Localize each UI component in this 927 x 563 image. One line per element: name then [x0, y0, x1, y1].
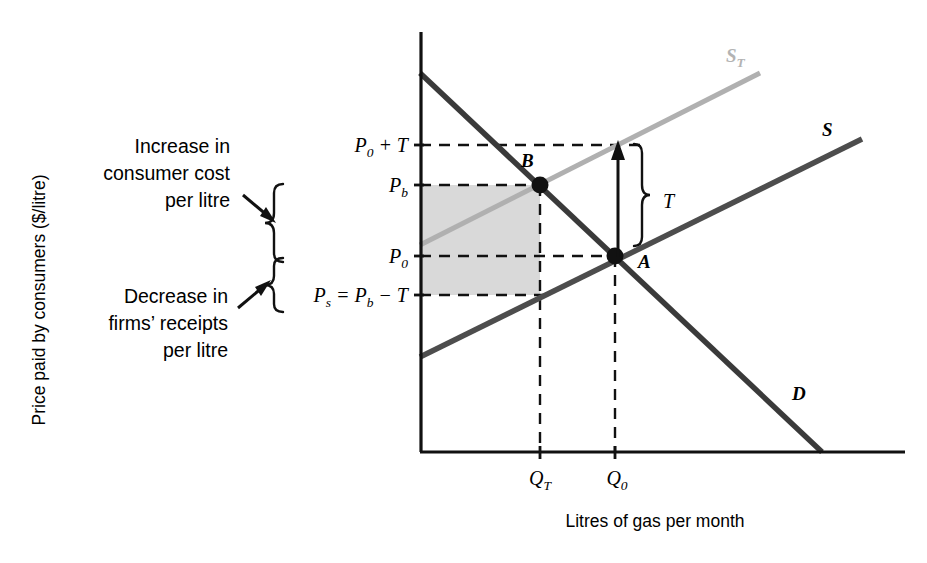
upper-annotation-text: Increase in consumer cost per litre — [103, 135, 230, 211]
p0-plus-t-base: P — [353, 134, 366, 156]
lower-annotation-arrow — [238, 280, 271, 308]
qt-base: Q — [529, 467, 544, 489]
st-base: S — [726, 45, 737, 66]
tax-gap-brace — [634, 144, 650, 246]
point-a-marker — [607, 248, 624, 265]
p0-sub: 0 — [401, 256, 408, 271]
upper-annotation-line-2: consumer cost — [103, 162, 230, 184]
svg-text:P0: P0 — [388, 245, 408, 271]
qt-sub: T — [543, 478, 552, 493]
ps-eq: = — [331, 284, 355, 306]
svg-text:Ps = Pb − T: Ps = Pb − T — [312, 284, 409, 310]
q0-base: Q — [606, 467, 621, 489]
upper-annotation-line-1: Increase in — [135, 135, 230, 157]
economics-supply-demand-figure: Price paid by consumers ($/litre) Litres… — [0, 0, 927, 563]
svg-text:Pb: Pb — [388, 174, 408, 200]
upper-annotation-arrow — [243, 195, 276, 223]
svg-text:QT: QT — [529, 467, 552, 493]
upper-annotation-line-3: per litre — [165, 189, 230, 211]
supply-tax-curve — [420, 73, 760, 245]
point-label-a: A — [637, 251, 651, 272]
quantity-label-q0: Q0 — [606, 467, 627, 493]
quantity-label-qt: QT — [529, 467, 552, 493]
ps-lhs-base: P — [312, 284, 325, 306]
svg-text:ST: ST — [726, 45, 746, 70]
lower-annotation-line-1: Decrease in — [124, 285, 228, 307]
price-label-p0-plus-t: P0 + T — [353, 134, 409, 160]
tax-gap-indicator — [611, 140, 650, 257]
p0-plus-t-tail: + T — [373, 134, 409, 156]
curve-label-supply-tax: ST — [726, 45, 746, 70]
point-b-marker — [532, 177, 549, 194]
tax-gap-label: T — [663, 190, 676, 212]
y-axis-title: Price paid by consumers ($/litre) — [29, 175, 49, 426]
q0-sub: 0 — [621, 478, 628, 493]
upper-brace — [265, 184, 283, 262]
ps-rhs-base: P — [353, 284, 366, 306]
svg-text:Q0: Q0 — [606, 467, 627, 493]
tax-revenue-shaded-region — [420, 185, 540, 295]
lower-annotation-text: Decrease in firms’ receipts per litre — [108, 285, 228, 361]
svg-text:P0 + T: P0 + T — [353, 134, 409, 160]
lower-annotation-line-3: per litre — [163, 339, 228, 361]
point-label-b: B — [520, 150, 534, 171]
p0-base: P — [388, 245, 401, 267]
pb-base: P — [388, 174, 401, 196]
st-sub: T — [737, 55, 746, 70]
price-label-pb: Pb — [388, 174, 408, 200]
price-label-ps-equation: Ps = Pb − T — [312, 284, 409, 310]
pb-sub: b — [401, 185, 408, 200]
price-label-p0: P0 — [388, 245, 408, 271]
x-axis-title: Litres of gas per month — [566, 511, 745, 531]
curve-label-supply: S — [822, 119, 833, 140]
curve-label-demand: D — [791, 383, 806, 404]
lower-annotation-line-2: firms’ receipts — [108, 312, 228, 334]
ps-rhs-tail: − T — [373, 284, 409, 306]
